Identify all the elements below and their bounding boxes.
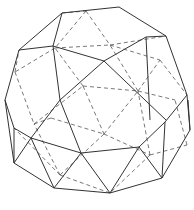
edge xyxy=(55,45,110,48)
edge xyxy=(138,91,150,155)
edge xyxy=(31,138,81,153)
edge xyxy=(34,124,60,175)
edge xyxy=(165,95,187,122)
edge xyxy=(104,61,166,120)
edge xyxy=(110,36,166,45)
edge xyxy=(81,147,139,153)
edge xyxy=(19,13,62,50)
edge xyxy=(15,72,34,124)
hidden-edges xyxy=(14,11,187,193)
edge xyxy=(150,145,187,155)
edge xyxy=(14,138,31,163)
edge xyxy=(138,60,160,91)
edge xyxy=(60,61,104,100)
edge xyxy=(54,153,81,188)
edge xyxy=(53,13,62,46)
edge xyxy=(110,45,160,60)
edge xyxy=(162,122,165,178)
edge xyxy=(83,86,104,134)
edge xyxy=(5,50,19,100)
edge xyxy=(5,100,14,128)
edge xyxy=(54,188,110,193)
edge xyxy=(86,11,110,45)
edge xyxy=(53,46,60,100)
edge xyxy=(83,86,138,91)
edge xyxy=(81,153,110,193)
edge xyxy=(119,7,166,36)
edge xyxy=(31,100,60,138)
edge xyxy=(5,100,14,163)
edge xyxy=(53,46,104,61)
edge xyxy=(146,36,166,37)
edge xyxy=(19,46,53,50)
edge xyxy=(55,11,86,48)
polyhedron-figure xyxy=(0,0,194,210)
visible-edges xyxy=(5,7,190,193)
edge xyxy=(162,130,190,178)
edge xyxy=(139,122,165,147)
edge xyxy=(62,7,119,13)
edge xyxy=(166,36,187,95)
edge xyxy=(51,118,104,134)
edge xyxy=(160,60,187,95)
edge xyxy=(104,91,138,134)
edge xyxy=(14,128,31,138)
edge xyxy=(104,37,146,61)
edge xyxy=(15,48,55,72)
